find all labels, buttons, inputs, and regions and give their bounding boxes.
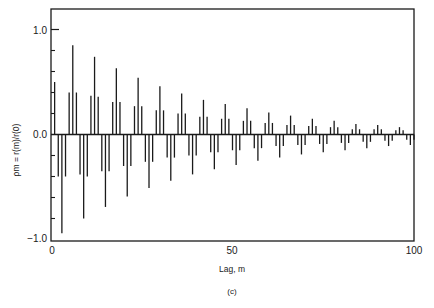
figure-caption: (c) (227, 287, 237, 296)
y-tick-label-bottom: −1.0 (27, 233, 47, 244)
x-tick-label-100: 100 (406, 245, 423, 256)
data-stems (55, 45, 414, 233)
y-tick-label-zero: 0.0 (33, 129, 47, 140)
autocorrelation-chart: 1.0 0.0 −1.0 0 50 100 Lag, m ρm = r(m)/r… (0, 0, 434, 308)
y-axis-label: ρm = r(m)/r(0) (11, 123, 21, 176)
x-tick-label-0: 0 (49, 245, 55, 256)
x-tick-label-50: 50 (226, 245, 238, 256)
x-axis-label: Lag, m (219, 264, 245, 274)
y-tick-label-top: 1.0 (33, 25, 47, 36)
